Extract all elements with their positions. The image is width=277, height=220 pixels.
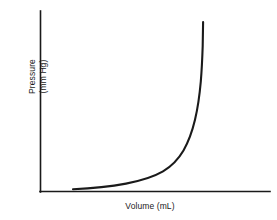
pressure-volume-curve [73, 22, 203, 189]
y-axis-label-line-1: Pressure [27, 42, 38, 112]
y-axis-label-line-2: (mm Hg) [37, 42, 48, 112]
x-axis-label: Volume (mL) [60, 201, 240, 212]
pressure-volume-chart: Pressure (mm Hg) Volume (mL) [0, 0, 277, 220]
y-axis-label: Pressure (mm Hg) [27, 42, 48, 112]
